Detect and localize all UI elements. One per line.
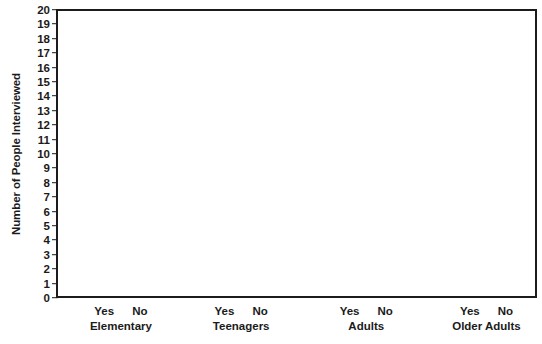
plot-area[interactable] <box>58 11 535 296</box>
x-axis-sublabel: Yes <box>94 305 114 318</box>
y-axis-tick-label: 11 <box>26 134 50 145</box>
y-axis-tick-label: 3 <box>26 249 50 260</box>
y-axis-tick-label: 18 <box>26 33 50 44</box>
y-axis-tick-label: 16 <box>26 62 50 73</box>
x-axis-sublabel: No <box>498 305 513 318</box>
x-axis-group: YesNoAdults <box>340 300 393 344</box>
x-axis-sublabel: No <box>132 305 147 318</box>
y-axis-tick-label: 13 <box>26 105 50 116</box>
y-axis-tick-label: 19 <box>26 19 50 30</box>
x-axis-sublabel: Yes <box>340 305 360 318</box>
y-axis-tick-label: 10 <box>26 149 50 160</box>
y-axis-title: Number of People Interviewed <box>8 4 24 304</box>
bar-chart-template: Number of People Interviewed 20191817161… <box>0 0 542 344</box>
x-axis-group-label: Older Adults <box>452 320 521 333</box>
x-axis-sublabel: Yes <box>460 305 480 318</box>
y-axis-tick-label: 5 <box>26 221 50 232</box>
x-axis-group-labels: YesNoElementaryYesNoTeenagersYesNoAdults… <box>56 300 537 344</box>
y-axis-tick-label: 12 <box>26 120 50 131</box>
x-axis-sublabel: No <box>377 305 392 318</box>
x-axis-group: YesNoOlder Adults <box>452 300 521 344</box>
x-axis-group-label: Adults <box>348 320 384 333</box>
x-axis-group-label: Teenagers <box>213 320 270 333</box>
x-axis-sublabel: Yes <box>215 305 235 318</box>
x-axis-group: YesNoTeenagers <box>213 300 270 344</box>
x-axis-sublabel-row: YesNo <box>340 305 393 318</box>
x-axis-sublabel-row: YesNo <box>460 305 513 318</box>
x-axis-sublabel-row: YesNo <box>94 305 147 318</box>
y-axis-tick-label: 2 <box>26 264 50 275</box>
y-axis-tick-label: 0 <box>26 293 50 304</box>
y-axis-tick-label: 15 <box>26 77 50 88</box>
y-axis-tick-labels: 20191817161514131211109876543210 <box>26 10 50 298</box>
y-axis-tick-label: 9 <box>26 163 50 174</box>
y-axis-tick-label: 8 <box>26 177 50 188</box>
y-axis-tick-label: 17 <box>26 48 50 59</box>
x-axis-group: YesNoElementary <box>90 300 152 344</box>
y-axis-tick-label: 20 <box>26 5 50 16</box>
x-axis-sublabel: No <box>252 305 267 318</box>
x-axis-group-label: Elementary <box>90 320 152 333</box>
x-axis-sublabel-row: YesNo <box>215 305 268 318</box>
y-axis-tick-label: 4 <box>26 235 50 246</box>
y-axis-tick-label: 6 <box>26 206 50 217</box>
y-axis-tick-label: 7 <box>26 192 50 203</box>
y-axis-tick-label: 1 <box>26 278 50 289</box>
plot-frame <box>56 9 537 298</box>
y-axis-tick-label: 14 <box>26 91 50 102</box>
